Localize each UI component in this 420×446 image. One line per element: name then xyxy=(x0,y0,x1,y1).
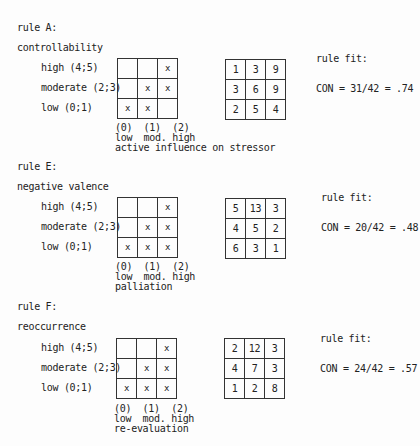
pattern-grid: x x x x x x xyxy=(116,338,177,399)
pattern-cell xyxy=(158,99,178,119)
row-label-high: high (4;5) xyxy=(41,63,98,73)
pattern-cell: x xyxy=(158,238,178,258)
pattern-cell xyxy=(118,79,138,99)
count-cell: 6 xyxy=(226,239,246,259)
count-cell: 7 xyxy=(245,359,265,379)
row-label-high: high (4;5) xyxy=(41,343,98,353)
count-cell: 12 xyxy=(245,339,265,359)
count-cell: 5 xyxy=(226,199,246,219)
row-label-moderate: moderate (2;3) xyxy=(41,83,121,93)
count-cell: 3 xyxy=(246,239,266,259)
count-cell: 8 xyxy=(265,379,285,399)
axis-label: palliation xyxy=(115,282,172,292)
axis-label: active influence on stressor xyxy=(115,143,275,153)
count-cell: 1 xyxy=(225,379,245,399)
pattern-cell: x xyxy=(137,379,157,399)
pattern-cell: x xyxy=(118,238,138,258)
pattern-grid: x x x x x x xyxy=(117,197,178,258)
pattern-cell xyxy=(118,218,138,238)
count-cell: 2 xyxy=(266,219,286,239)
count-cell: 5 xyxy=(246,100,266,120)
rule-fit-value: CON = 31/42 = .74 xyxy=(316,84,413,94)
pattern-cell: x xyxy=(118,99,138,119)
rule-fit-value: CON = 20/42 = .48 xyxy=(321,223,418,233)
pattern-cell: x xyxy=(137,359,157,379)
count-grid: 1 3 9 3 6 9 2 5 4 xyxy=(225,59,286,120)
count-grid: 5 13 3 4 5 2 6 3 1 xyxy=(225,198,286,259)
rule-fit-label: rule fit: xyxy=(320,334,372,344)
count-cell: 5 xyxy=(246,219,266,239)
pattern-cell: x xyxy=(157,359,177,379)
pattern-cell xyxy=(138,59,158,79)
rule-variable: negative valence xyxy=(17,182,109,192)
rule-title: rule E: xyxy=(17,162,57,172)
count-cell: 4 xyxy=(266,100,286,120)
row-label-high: high (4;5) xyxy=(41,202,98,212)
count-cell: 4 xyxy=(226,219,246,239)
pattern-cell: x xyxy=(158,198,178,218)
pattern-cell xyxy=(118,198,138,218)
axis-label: re-evaluation xyxy=(114,424,188,434)
rule-fit-label: rule fit: xyxy=(316,54,368,64)
count-cell: 2 xyxy=(245,379,265,399)
rule-title: rule F: xyxy=(17,302,57,312)
count-cell: 4 xyxy=(225,359,245,379)
count-cell: 1 xyxy=(266,239,286,259)
rule-fit-value: CON = 24/42 = .57 xyxy=(320,364,417,374)
count-grid: 2 12 3 4 7 3 1 2 8 xyxy=(224,338,285,399)
count-cell: 3 xyxy=(266,199,286,219)
pattern-cell: x xyxy=(158,218,178,238)
row-label-low: low (0;1) xyxy=(41,103,93,113)
row-label-moderate: moderate (2;3) xyxy=(41,222,121,232)
pattern-cell: x xyxy=(157,379,177,399)
pattern-cell: x xyxy=(117,379,137,399)
count-cell: 1 xyxy=(226,60,246,80)
count-cell: 13 xyxy=(246,199,266,219)
rule-fit-label: rule fit: xyxy=(321,193,373,203)
count-cell: 9 xyxy=(266,60,286,80)
count-cell: 6 xyxy=(246,80,266,100)
row-label-moderate: moderate (2;3) xyxy=(41,363,121,373)
pattern-cell: x xyxy=(138,238,158,258)
pattern-cell xyxy=(118,59,138,79)
pattern-cell: x xyxy=(158,79,178,99)
pattern-cell: x xyxy=(157,339,177,359)
count-cell: 9 xyxy=(266,80,286,100)
pattern-cell xyxy=(138,198,158,218)
rule-variable: controllability xyxy=(17,43,103,53)
pattern-cell xyxy=(117,359,137,379)
row-label-low: low (0;1) xyxy=(41,242,93,252)
count-cell: 3 xyxy=(265,359,285,379)
count-cell: 3 xyxy=(246,60,266,80)
row-label-low: low (0;1) xyxy=(41,383,93,393)
rule-title: rule A: xyxy=(17,23,57,33)
rule-variable: reoccurrence xyxy=(17,322,86,332)
pattern-cell: x xyxy=(138,99,158,119)
pattern-cell: x xyxy=(138,218,158,238)
pattern-cell: x xyxy=(138,79,158,99)
pattern-cell xyxy=(137,339,157,359)
pattern-cell: x xyxy=(158,59,178,79)
pattern-grid: x x x x x xyxy=(117,58,178,119)
pattern-cell xyxy=(117,339,137,359)
count-cell: 3 xyxy=(226,80,246,100)
count-cell: 3 xyxy=(265,339,285,359)
count-cell: 2 xyxy=(226,100,246,120)
count-cell: 2 xyxy=(225,339,245,359)
